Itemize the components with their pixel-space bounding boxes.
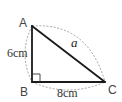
side-ac (32, 26, 105, 82)
side-label-ac: a (71, 35, 78, 50)
side-label-ab: 6cm (7, 46, 28, 60)
vertex-label-b: B (20, 85, 28, 99)
vertex-label-c: C (108, 83, 117, 97)
right-angle-marker (32, 74, 40, 82)
side-label-bc: 8cm (57, 86, 78, 100)
vertex-label-a: A (19, 16, 27, 30)
right-triangle-diagram: A B C 6cm 8cm a (0, 0, 122, 102)
